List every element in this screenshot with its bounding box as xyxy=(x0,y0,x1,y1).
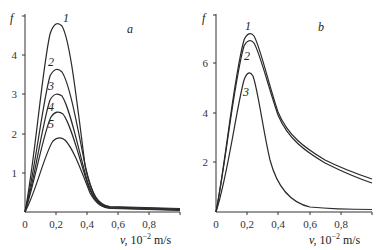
curve-label-a-1: 1 xyxy=(63,11,69,25)
curve-label-a-5: 5 xyxy=(48,117,54,131)
curve-b-2 xyxy=(216,41,372,212)
y-ticks-b: 2 4 6 xyxy=(203,15,217,168)
x-axis-title-b: v, 10−2 m/s xyxy=(309,232,361,247)
curve-label-a-4: 4 xyxy=(48,100,54,114)
curve-label-a-2: 2 xyxy=(48,55,54,69)
y-axis-title-b: f xyxy=(202,11,207,25)
x-ticks-a: 0 0,2 0,4 0,6 0,8 xyxy=(22,212,180,230)
y-tick-label: 3 xyxy=(12,88,18,100)
figure: 1 2 3 4 0 0,2 0,4 0,6 0,8 f v, 10−2 m/s … xyxy=(0,0,378,250)
panel-b: 2 4 6 0 0,2 0,4 0,6 0,8 f v, 10−2 m/s b … xyxy=(202,11,372,247)
y-tick-label: 4 xyxy=(203,107,209,119)
curve-b-3 xyxy=(216,73,372,212)
x-tick-label: 0 xyxy=(213,218,219,230)
x-axis-title-a: v, 10−2 m/s xyxy=(120,232,172,247)
curve-label-b-1: 1 xyxy=(245,19,251,33)
y-axis-title-a: f xyxy=(10,11,15,25)
y-ticks-a: 1 2 3 4 xyxy=(12,16,26,179)
panel-label-b: b xyxy=(318,20,324,34)
curve-a-5 xyxy=(25,138,180,212)
x-tick-label: 0 xyxy=(22,218,28,230)
x-tick-label: 0,2 xyxy=(240,218,254,230)
curve-label-b-2: 2 xyxy=(244,49,250,63)
x-tick-label: 0,8 xyxy=(142,218,156,230)
x-tick-label: 0,2 xyxy=(49,218,63,230)
y-tick-label: 2 xyxy=(12,128,18,140)
y-tick-label: 2 xyxy=(203,156,209,168)
x-tick-label: 0,4 xyxy=(271,218,285,230)
y-tick-label: 1 xyxy=(12,167,18,179)
curve-b-1 xyxy=(216,34,372,212)
x-tick-label: 0,6 xyxy=(111,218,125,230)
curve-label-a-3: 3 xyxy=(47,79,54,93)
x-tick-label: 0,8 xyxy=(334,218,348,230)
y-tick-label: 4 xyxy=(12,49,18,61)
panel-label-a: a xyxy=(127,22,133,36)
x-tick-label: 0,4 xyxy=(80,218,94,230)
x-tick-label: 0,6 xyxy=(303,218,317,230)
x-ticks-b: 0 0,2 0,4 0,6 0,8 xyxy=(213,212,372,230)
panel-a: 1 2 3 4 0 0,2 0,4 0,6 0,8 f v, 10−2 m/s … xyxy=(10,11,180,247)
curve-label-b-3: 3 xyxy=(242,85,249,99)
y-tick-label: 6 xyxy=(203,57,209,69)
